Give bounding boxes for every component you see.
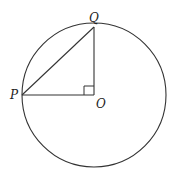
label-q: Q [89,11,99,25]
label-p: P [9,88,19,102]
geometry-diagram: Q P O [0,0,177,172]
chord-pq [22,27,94,95]
label-o: O [96,97,106,111]
right-angle-marker [84,86,94,95]
diagram-canvas: Q P O [0,0,177,172]
